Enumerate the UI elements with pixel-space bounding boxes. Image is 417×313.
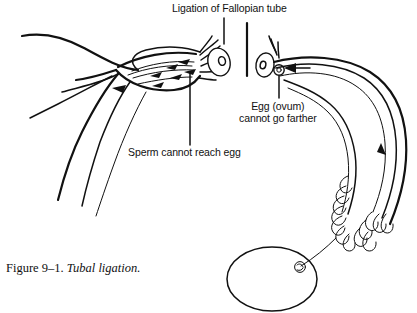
left-fallopian-tube — [22, 35, 200, 217]
label-egg-line1: Egg (ovum) — [239, 101, 317, 113]
uterus — [227, 247, 317, 311]
figure-caption-title: Tubal ligation. — [67, 261, 141, 275]
leader-lines — [190, 18, 279, 145]
left-ovary — [199, 36, 233, 80]
label-sperm-cannot-reach-egg: Sperm cannot reach egg — [128, 147, 241, 159]
label-egg-line2: cannot go farther — [239, 113, 317, 125]
figure-caption: Figure 9–1. Tubal ligation. — [6, 261, 140, 276]
figure-caption-number: Figure 9–1. — [6, 261, 64, 275]
right-fallopian-tube — [274, 57, 406, 224]
tube-to-uterus-line — [301, 238, 336, 266]
figure-container: Ligation of Fallopian tube Egg (ovum) ca… — [0, 0, 417, 313]
label-egg-cannot-go-farther: Egg (ovum) cannot go farther — [239, 101, 317, 124]
label-ligation-of-fallopian-tube: Ligation of Fallopian tube — [172, 3, 287, 15]
